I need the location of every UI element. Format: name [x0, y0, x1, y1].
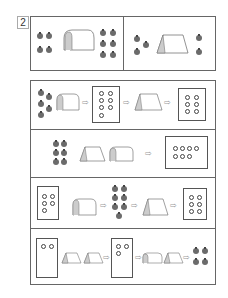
apple-icon [143, 42, 149, 48]
apple-icon [134, 49, 140, 55]
apple-icon [53, 141, 59, 147]
answer-box[interactable] [178, 88, 206, 121]
apple-icon [38, 112, 44, 118]
apple-icon [134, 36, 140, 42]
tent-tunnel-icon [155, 33, 189, 55]
arrow-icon: ⇨ [131, 202, 138, 210]
tent-tunnel-icon [82, 251, 104, 265]
answer-box[interactable] [165, 136, 208, 169]
panel-divider [123, 16, 124, 71]
apple-icon [61, 150, 67, 156]
apple-icon [193, 259, 199, 265]
apple-icon [46, 47, 52, 53]
apple-icon [202, 259, 208, 265]
apple-icon [110, 52, 116, 58]
apple-icon [46, 106, 52, 112]
apple-icon [110, 30, 116, 36]
apple-icon [121, 195, 127, 201]
arrow-icon: ⇨ [82, 99, 89, 107]
apple-icon [121, 204, 127, 210]
row-divider [30, 129, 216, 130]
apple-icon [37, 47, 43, 53]
arrow-icon: ⇨ [123, 99, 130, 107]
apple-icon [196, 49, 202, 55]
arch-tunnel-icon [60, 28, 96, 54]
arch-tunnel-icon [141, 251, 163, 265]
apple-icon [53, 159, 59, 165]
tent-tunnel-icon [141, 197, 169, 217]
answer-box[interactable] [36, 238, 58, 278]
apple-icon [46, 94, 52, 100]
apple-icon [112, 186, 118, 192]
tent-tunnel-icon [78, 145, 106, 163]
row-divider [30, 177, 216, 178]
arrow-icon: ⇨ [164, 99, 171, 107]
answer-box[interactable] [37, 186, 59, 220]
apple-icon [46, 33, 52, 39]
apple-icon [38, 101, 44, 107]
apple-icon [100, 52, 106, 58]
apple-icon [121, 186, 127, 192]
arrow-icon: ⇨ [170, 202, 177, 210]
answer-box[interactable] [111, 238, 133, 278]
apple-icon [116, 213, 122, 219]
apple-icon [53, 150, 59, 156]
tent-tunnel-icon [162, 251, 184, 265]
arrow-icon: ⇨ [145, 150, 152, 158]
apple-icon [37, 33, 43, 39]
apple-icon [100, 30, 106, 36]
answer-box[interactable] [183, 188, 207, 220]
arrow-icon: ⇨ [100, 202, 107, 210]
arrow-icon: ⇨ [183, 254, 190, 262]
apple-icon [61, 141, 67, 147]
answer-box[interactable] [92, 86, 120, 123]
apple-icon [193, 248, 199, 254]
arrow-icon: ⇨ [103, 254, 110, 262]
apple-icon [112, 204, 118, 210]
apple-icon [196, 35, 202, 41]
problem-number: 2 [17, 16, 29, 29]
arch-tunnel-icon [70, 197, 98, 217]
arch-tunnel-icon [54, 92, 80, 112]
row-divider [30, 228, 216, 229]
arch-tunnel-icon [107, 145, 135, 163]
apple-icon [61, 159, 67, 165]
apple-icon [202, 248, 208, 254]
apple-icon [38, 90, 44, 96]
apple-icon [100, 41, 106, 47]
apple-icon [110, 41, 116, 47]
apple-icon [112, 195, 118, 201]
tent-tunnel-icon [60, 251, 82, 265]
tent-tunnel-icon [133, 92, 163, 112]
